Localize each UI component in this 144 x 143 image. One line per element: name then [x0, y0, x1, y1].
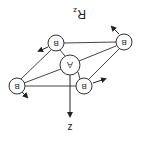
- displacement-arrow: [112, 27, 119, 34]
- rotation-label-subscript: z: [73, 6, 77, 15]
- rotation-label-main: R: [77, 7, 86, 21]
- atom-b-top-left: B: [39, 35, 64, 51]
- svg-text:B: B: [121, 38, 126, 47]
- atom-b-bottom-right: B: [76, 78, 105, 94]
- z-axis-label: z: [68, 121, 73, 132]
- molecule-diagram: z R z A B B B B: [0, 0, 144, 143]
- displacement-arrow: [93, 79, 105, 83]
- displacement-arrow: [39, 47, 48, 51]
- svg-text:B: B: [53, 39, 58, 48]
- displacement-arrow: [22, 92, 27, 97]
- atom-a: A: [60, 55, 80, 75]
- svg-text:B: B: [81, 82, 86, 91]
- svg-text:A: A: [67, 60, 73, 70]
- svg-text:B: B: [14, 82, 19, 91]
- rotation-label: R z: [73, 6, 86, 21]
- atom-b-bottom-left: B: [9, 78, 27, 97]
